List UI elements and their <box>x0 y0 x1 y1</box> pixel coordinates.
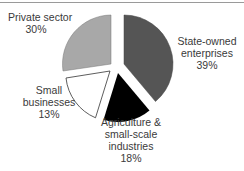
label-value: 30% <box>8 23 64 35</box>
label-state-owned: State-owned enterprises 39% <box>175 35 239 71</box>
label-value: 39% <box>175 59 239 71</box>
label-value: 18% <box>92 152 170 164</box>
label-value: 13% <box>20 108 78 120</box>
label-small-businesses: Small businesses 13% <box>20 84 78 120</box>
label-text: State-owned <box>175 35 239 47</box>
label-text: enterprises <box>175 47 239 59</box>
label-text: industries <box>92 140 170 152</box>
label-text: Small <box>20 84 78 96</box>
label-agriculture: Agriculture & small-scale industries 18% <box>92 116 170 164</box>
label-text: businesses <box>20 96 78 108</box>
slice-private-sector <box>62 15 111 71</box>
label-private-sector: Private sector 30% <box>8 11 64 35</box>
label-text: Agriculture & <box>92 116 170 128</box>
label-text: Private sector <box>8 11 64 23</box>
slice-state-owned <box>124 15 173 102</box>
label-text: small-scale <box>92 128 170 140</box>
